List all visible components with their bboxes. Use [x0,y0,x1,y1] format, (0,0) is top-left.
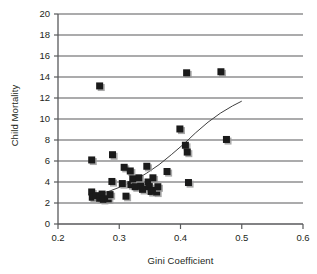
data-point [149,174,156,181]
data-point [154,183,161,190]
y-tick-label: 14 [24,71,50,82]
x-tick-marks [58,224,303,229]
y-tick-label: 6 [24,155,50,166]
data-point [184,149,191,156]
x-tick-label: 0.4 [161,232,201,243]
y-tick-label: 16 [24,50,50,61]
y-tick-label: 2 [24,197,50,208]
data-point [107,191,114,198]
data-points [88,68,231,204]
x-tick-label: 0.5 [222,232,262,243]
data-point [164,168,171,175]
x-tick-label: 0.2 [38,232,78,243]
data-point [88,156,95,163]
data-point [96,82,103,89]
y-tick-label: 20 [24,8,50,19]
data-point [176,125,183,132]
y-axis-title: Child Mortality [9,71,20,161]
data-point [223,136,230,143]
y-tick-label: 12 [24,92,50,103]
x-tick-label: 0.3 [99,232,139,243]
data-point [135,174,142,181]
data-point [127,167,134,174]
data-point [108,178,115,185]
scatter-chart: Child Mortality Gini Coefficient 0246810… [0,0,317,274]
data-point [119,180,126,187]
data-point [217,68,224,75]
x-axis-title: Gini Coefficient [58,255,303,266]
y-tick-label: 4 [24,176,50,187]
data-point [183,69,190,76]
data-point [122,193,129,200]
data-point [182,142,189,149]
data-point [139,186,146,193]
data-point [129,175,136,182]
y-tick-label: 10 [24,113,50,124]
data-point [109,151,116,158]
data-point [143,163,150,170]
y-tick-label: 8 [24,134,50,145]
y-tick-label: 0 [24,218,50,229]
x-tick-label: 0.6 [283,232,317,243]
data-point [185,179,192,186]
y-tick-label: 18 [24,29,50,40]
data-point [121,164,128,171]
